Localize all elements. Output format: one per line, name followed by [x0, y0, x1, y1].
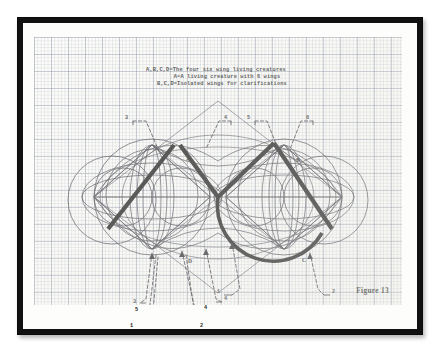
- callout-bottom-3: 3: [133, 300, 136, 305]
- frame-inner: A,B,C,D=The four six wing living creatur…: [23, 23, 417, 329]
- callout-top-6: 6: [306, 116, 309, 121]
- callout-bottom-4b: 4: [224, 297, 227, 302]
- callout-bottom-4a: 4: [204, 306, 207, 311]
- legend-line-1: A,B,C,D=The four six wing living creatur…: [34, 67, 402, 74]
- leader-ticks-top: [133, 121, 313, 125]
- legend-line-3: B,C,D=Isolated wings for clarifications: [34, 81, 402, 88]
- callout-top-5: 5: [247, 116, 250, 121]
- callout-bottom-2b: 2: [332, 290, 335, 295]
- label-letter-d: D: [188, 259, 192, 265]
- legend-line-2: A=A living creature with 6 wings: [34, 74, 402, 81]
- screenshot-page: A,B,C,D=The four six wing living creatur…: [0, 0, 440, 352]
- label-letter-c: C: [302, 258, 306, 264]
- label-letter-a: A: [186, 157, 190, 163]
- photo-frame: A,B,C,D=The four six wing living creatur…: [17, 17, 423, 335]
- callout-bottom-2a: 2: [200, 324, 203, 329]
- callout-bottom-1: 1: [130, 324, 133, 329]
- callout-top-3: 3: [125, 116, 128, 121]
- leader-ticks-bottom: [138, 295, 330, 305]
- figure-legend: A,B,C,D=The four six wing living creatur…: [34, 67, 402, 89]
- callout-bottom-5: 5: [135, 308, 138, 313]
- callout-bottom-1b: 1: [217, 290, 220, 295]
- label-letter-b: B: [296, 158, 300, 164]
- graph-paper: A,B,C,D=The four six wing living creatur…: [34, 37, 402, 305]
- figure-caption: Figure 13: [356, 286, 389, 295]
- callout-top-4: 4: [224, 116, 227, 121]
